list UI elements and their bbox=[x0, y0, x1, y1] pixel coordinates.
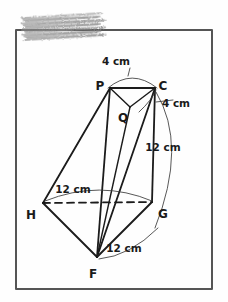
geometry-diagram: PCQHGF 4 cm4 cm12 cm12 cm12 cm bbox=[0, 0, 228, 302]
measure-label-m-pc: 4 cm bbox=[102, 55, 130, 67]
measure-label-m-cg: 12 cm bbox=[145, 141, 180, 153]
measure-label-m-hg: 12 cm bbox=[55, 183, 90, 195]
vertex-label-p: P bbox=[96, 79, 105, 93]
vertex-label-q: Q bbox=[118, 111, 128, 125]
diagram-page: PCQHGF 4 cm4 cm12 cm12 cm12 cm bbox=[0, 0, 228, 302]
measure-label-m-gf: 12 cm bbox=[106, 242, 141, 254]
vertex-label-g: G bbox=[158, 207, 168, 221]
vertex-label-h: H bbox=[26, 208, 36, 222]
vertex-label-c: C bbox=[159, 79, 168, 93]
vertex-label-f: F bbox=[89, 267, 97, 281]
measure-label-m-qc: 4 cm bbox=[162, 97, 190, 109]
page-background bbox=[0, 0, 228, 302]
